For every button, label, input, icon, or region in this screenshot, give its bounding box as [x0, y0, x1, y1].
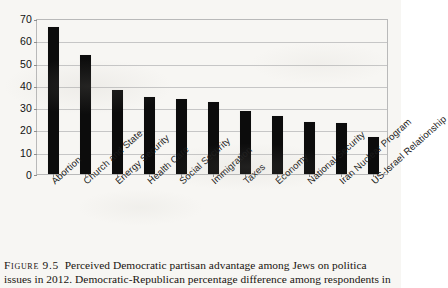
caption-line-1: Perceived Democratic partisan advantage … [65, 259, 367, 271]
figure-number: Figure 9.5 [4, 259, 59, 271]
y-tick-label: 60 [6, 36, 32, 47]
y-tick-label: 30 [6, 103, 32, 114]
bar [48, 27, 59, 174]
caption-line-2: issues in 2012. Democratic-Republican pe… [4, 272, 395, 286]
bar [240, 111, 251, 175]
y-tick-label: 70 [6, 14, 32, 25]
y-axis-tick-labels: 70 60 50 40 30 20 10 0 [6, 14, 32, 176]
x-axis-category-labels: AbortionChurch and StateEnergy SecurityH… [36, 176, 388, 240]
y-tick-label: 50 [6, 58, 32, 69]
bar-chart-figure: 70 60 50 40 30 20 10 0 [0, 0, 401, 240]
y-tick-label: 40 [6, 81, 32, 92]
y-tick-label: 0 [6, 170, 32, 181]
figure-caption: Figure 9.5 Perceived Democratic partisan… [0, 258, 401, 288]
y-tick-label: 20 [6, 125, 32, 136]
bar [272, 116, 283, 174]
y-tick-label: 10 [6, 147, 32, 158]
bar [80, 55, 91, 174]
bar [304, 122, 315, 174]
